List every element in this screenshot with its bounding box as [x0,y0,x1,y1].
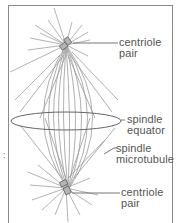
label-bottom-centriole: centriole pair [121,187,163,209]
label-spindle-microtubule: spindle microtubule [116,143,174,165]
spindle-fibers [15,45,118,190]
label-spindle-equator: spindle equator [127,114,165,136]
label-top-centriole: centriole pair [119,37,161,59]
bottom-aster [28,165,98,222]
spindle-equator-ellipse [11,112,121,130]
top-aster [10,8,90,72]
